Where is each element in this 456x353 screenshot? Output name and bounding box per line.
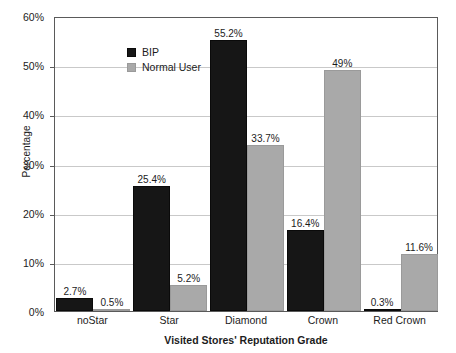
bar-crown-bip: 16.4% [287, 230, 324, 311]
x-axis-label-diamond: Diamond [225, 314, 267, 326]
legend-swatch-icon-normal-user [127, 63, 136, 72]
x-axis-label-red-crown: Red Crown [373, 314, 426, 326]
bar-crown-normal-user: 49% [324, 70, 361, 311]
bar-value-label: 55.2% [214, 28, 242, 39]
legend-label-bip: BIP [142, 46, 159, 58]
y-axis-tick-label: 30% [23, 159, 44, 171]
bar-value-label: 5.2% [177, 273, 200, 284]
bar-value-label: 0.3% [371, 297, 394, 308]
x-axis-category-labels: noStarStarDiamondCrownRed Crown [54, 314, 438, 332]
legend: BIP Normal User [127, 45, 201, 75]
legend-item-normal-user: Normal User [127, 60, 201, 74]
y-axis-tick-label: 50% [23, 60, 44, 72]
bar-star-bip: 25.4% [133, 186, 170, 311]
bar-value-label: 25.4% [138, 174, 166, 185]
x-axis-label-nostar: noStar [77, 314, 108, 326]
bar-value-label: 33.7% [251, 133, 279, 144]
bar-star-normal-user: 5.2% [170, 285, 207, 311]
bars-layer: 2.7%0.5%25.4%5.2%55.2%33.7%16.4%49%0.3%1… [55, 18, 437, 311]
plot-area: 2.7%0.5%25.4%5.2%55.2%33.7%16.4%49%0.3%1… [54, 17, 438, 312]
bar-nostar-bip: 2.7% [56, 298, 93, 311]
legend-swatch-icon-bip [127, 48, 136, 57]
bar-value-label: 49% [332, 58, 352, 69]
bar-value-label: 2.7% [63, 286, 86, 297]
y-axis-tick-label: 0% [29, 306, 44, 318]
x-axis-title: Visited Stores' Reputation Grade [54, 334, 438, 346]
y-axis-tick-label: 20% [23, 208, 44, 220]
legend-item-bip: BIP [127, 45, 201, 59]
x-axis-label-star: Star [160, 314, 179, 326]
x-axis-label-crown: Crown [308, 314, 338, 326]
y-axis-tick-labels: 0%10%20%30%40%50%60% [0, 0, 50, 353]
bar-value-label: 0.5% [100, 297, 123, 308]
bar-red-crown-bip: 0.3% [364, 309, 401, 311]
bar-diamond-normal-user: 33.7% [247, 145, 284, 311]
bar-value-label: 16.4% [291, 218, 319, 229]
bar-value-label: 11.6% [405, 242, 433, 253]
bar-red-crown-normal-user: 11.6% [401, 254, 438, 311]
bar-diamond-bip: 55.2% [210, 40, 247, 311]
legend-label-normal-user: Normal User [142, 61, 201, 73]
y-axis-tick-label: 10% [23, 257, 44, 269]
bar-chart: Percentage 0%10%20%30%40%50%60% 2.7%0.5%… [0, 0, 456, 353]
bar-nostar-normal-user: 0.5% [93, 309, 130, 311]
y-axis-tick-label: 40% [23, 109, 44, 121]
y-axis-tick-label: 60% [23, 11, 44, 23]
